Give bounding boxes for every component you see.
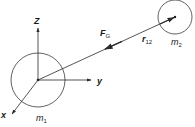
x-axis-label: x — [0, 110, 7, 120]
force-label: FG — [100, 28, 111, 39]
distance-label: r12 — [142, 34, 153, 45]
y-axis-label: y — [96, 76, 103, 86]
x-axis — [12, 80, 38, 114]
distance-vector-arrow — [160, 18, 174, 25]
gravitation-diagram: Z y x m1 m2 FG r12 — [0, 0, 195, 127]
mass-2-label: m2 — [171, 37, 183, 48]
z-axis-label: Z — [33, 16, 40, 26]
force-vector-arrow — [105, 41, 122, 49]
mass-1-label: m1 — [36, 113, 48, 124]
